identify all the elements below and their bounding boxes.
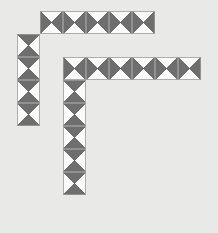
tile-corner-c5-r2[interactable] <box>132 57 155 80</box>
tile-corner-c2-r6[interactable] <box>63 149 86 172</box>
tile-corner-c7-r2[interactable] <box>178 57 201 80</box>
tile-corner-c4-r2[interactable] <box>109 57 132 80</box>
tile-corner-c6-r2[interactable] <box>155 57 178 80</box>
tile-corner-c2-r3[interactable] <box>63 80 86 103</box>
tile-corner-c2-r2[interactable] <box>63 57 86 80</box>
tile-corner-c2-r4[interactable] <box>63 103 86 126</box>
tile-corner-c3-r2[interactable] <box>86 57 109 80</box>
puzzle-canvas <box>0 0 218 233</box>
tile-corner-c2-r7[interactable] <box>63 172 86 195</box>
gamma-piece[interactable] <box>0 0 218 233</box>
tile-corner-c2-r5[interactable] <box>63 126 86 149</box>
